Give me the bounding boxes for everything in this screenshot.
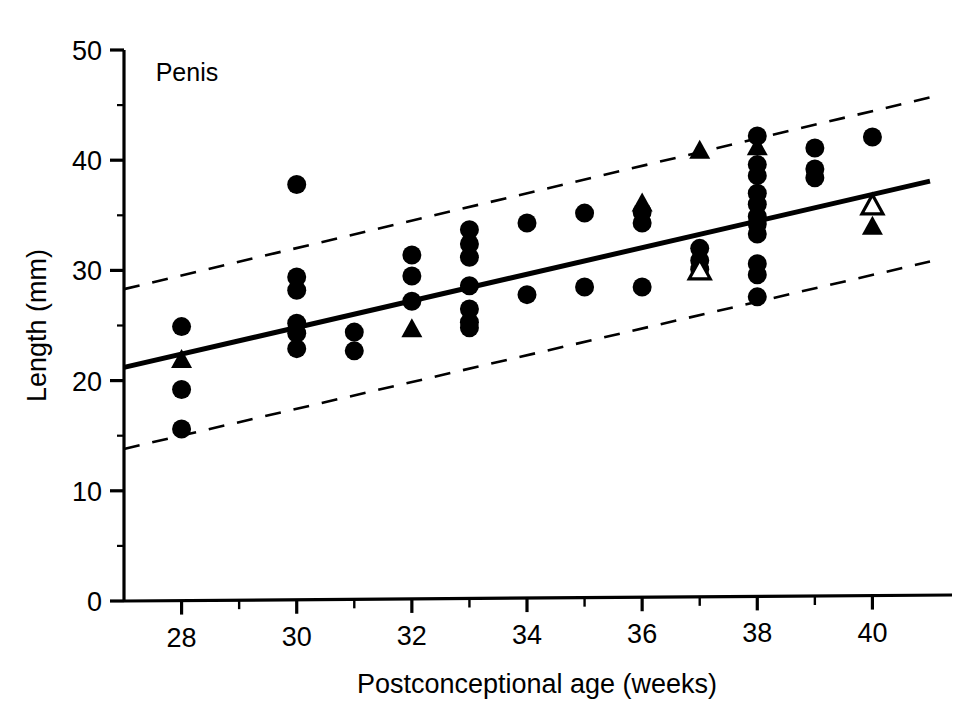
chart-figure: 0102030405028303234363840Postconceptiona…: [0, 0, 970, 726]
data-point-circle: [172, 317, 191, 336]
data-point-circle: [460, 318, 479, 337]
data-point-circle: [287, 281, 306, 300]
x-tick-label: 28: [167, 623, 197, 653]
data-point-circle: [805, 168, 824, 187]
data-point-circle: [460, 248, 479, 267]
data-point-circle: [748, 265, 767, 284]
x-axis-title: Postconceptional age (weeks): [357, 669, 717, 699]
series-annotation: Penis: [156, 58, 219, 86]
y-axis-title: Length (mm): [22, 249, 52, 402]
data-point-circle: [633, 214, 652, 233]
data-point-circle: [633, 277, 652, 296]
data-point-circle: [863, 128, 882, 147]
y-tick-label: 50: [72, 36, 102, 66]
data-point-circle: [345, 341, 364, 360]
y-tick-label: 40: [72, 146, 102, 176]
x-tick-label: 34: [512, 620, 542, 650]
x-tick-label: 30: [282, 622, 312, 652]
y-tick-label: 10: [72, 477, 102, 507]
x-tick-label: 36: [627, 619, 657, 649]
data-point-circle: [172, 420, 191, 439]
data-point-circle: [287, 339, 306, 358]
data-point-circle: [402, 292, 421, 311]
data-point-circle: [748, 166, 767, 185]
data-point-circle: [748, 287, 767, 306]
x-tick-label: 40: [857, 618, 887, 648]
data-point-circle: [460, 276, 479, 295]
data-point-circle: [402, 266, 421, 285]
y-tick-label: 30: [72, 256, 102, 286]
data-point-circle: [345, 323, 364, 342]
data-point-circle: [287, 175, 306, 194]
x-tick-label: 32: [397, 621, 427, 651]
y-tick-label: 0: [87, 587, 102, 617]
data-point-circle: [748, 225, 767, 244]
x-tick-label: 38: [742, 618, 772, 648]
y-tick-label: 20: [72, 367, 102, 397]
data-point-circle: [805, 139, 824, 158]
scatter-plot: 0102030405028303234363840Postconceptiona…: [0, 0, 970, 726]
data-point-circle: [575, 277, 594, 296]
data-point-circle: [575, 204, 594, 223]
data-point-circle: [402, 245, 421, 264]
data-point-circle: [518, 285, 537, 304]
data-point-circle: [518, 214, 537, 233]
data-point-circle: [172, 380, 191, 399]
